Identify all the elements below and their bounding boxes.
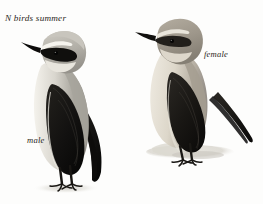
male-eye-catchlight — [55, 52, 56, 53]
illustration-plate: N birds summer male female — [0, 0, 263, 204]
female-label: female — [204, 49, 228, 59]
bird-plate-artwork — [0, 0, 263, 204]
male-eye — [54, 51, 58, 55]
female-bird — [135, 19, 253, 166]
female-tail — [213, 92, 253, 142]
female-tail-feather-2 — [209, 96, 248, 143]
female-eye-catchlight — [171, 40, 172, 41]
male-bill — [21, 42, 41, 53]
female-bill — [135, 32, 156, 41]
female-cast-shadow — [172, 151, 224, 159]
female-eye — [170, 39, 174, 43]
plate-caption: N birds summer — [5, 13, 66, 23]
female-feet — [172, 160, 202, 166]
male-bird — [21, 31, 102, 194]
male-ground-shadow — [32, 183, 100, 194]
male-label: male — [27, 135, 45, 145]
